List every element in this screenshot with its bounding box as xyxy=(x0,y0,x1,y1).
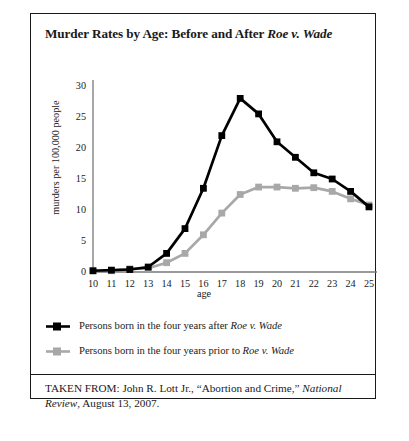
y-tick-label: 20 xyxy=(60,143,86,153)
chart-title-case-name: Roe v. Wade xyxy=(267,26,332,41)
data-point-marker xyxy=(218,210,225,217)
data-point-marker xyxy=(310,184,317,191)
legend-key-black xyxy=(45,321,71,332)
chart-title-prefix: Murder Rates by Age: Before and After xyxy=(45,26,267,41)
legend-label-prior-prefix: Persons born in the four years prior to xyxy=(79,345,243,356)
legend-label-after-prefix: Persons born in the four years after xyxy=(79,320,231,331)
data-point-marker xyxy=(200,231,207,238)
data-point-marker xyxy=(218,132,225,139)
legend-item-prior: Persons born in the four years prior to … xyxy=(45,344,371,369)
chart-title: Murder Rates by Age: Before and After Ro… xyxy=(45,26,365,42)
data-point-marker xyxy=(329,176,336,183)
data-point-marker xyxy=(163,259,170,266)
data-point-marker xyxy=(90,267,97,274)
source-divider xyxy=(31,374,375,375)
legend-item-after: Persons born in the four years after Roe… xyxy=(45,319,371,344)
data-point-marker xyxy=(126,266,133,273)
data-point-marker xyxy=(163,250,170,257)
data-point-marker xyxy=(310,169,317,176)
legend-label-prior-case-name: Roe v. Wade xyxy=(243,345,294,356)
data-point-marker xyxy=(274,184,281,191)
y-tick-label: 25 xyxy=(60,112,86,122)
y-tick-label: 10 xyxy=(60,205,86,215)
data-point-marker xyxy=(200,185,207,192)
data-point-marker xyxy=(292,154,299,161)
y-tick-label: 0 xyxy=(60,267,86,277)
source-suffix: , August 13, 2007. xyxy=(77,397,159,409)
data-point-marker xyxy=(182,225,189,232)
data-point-marker xyxy=(237,95,244,102)
source-prefix: TAKEN FROM: John R. Lott Jr., “Abortion … xyxy=(45,382,302,394)
line-chart: murders per 100,000 people age 051015202… xyxy=(31,56,377,308)
source-citation: TAKEN FROM: John R. Lott Jr., “Abortion … xyxy=(45,381,365,412)
y-tick-label: 30 xyxy=(60,81,86,91)
chart-legend: Persons born in the four years after Roe… xyxy=(45,319,371,369)
y-tick-label: 5 xyxy=(60,236,86,246)
data-point-marker xyxy=(347,195,354,202)
data-point-marker xyxy=(255,111,262,118)
data-point-marker xyxy=(347,188,354,195)
data-point-marker xyxy=(292,185,299,192)
data-point-marker xyxy=(274,138,281,145)
series-line xyxy=(93,187,369,271)
data-point-marker xyxy=(145,264,152,271)
legend-label-prior: Persons born in the four years prior to … xyxy=(79,345,294,356)
y-tick-label: 15 xyxy=(60,174,86,184)
data-point-marker xyxy=(255,184,262,191)
legend-label-after-case-name: Roe v. Wade xyxy=(231,320,282,331)
data-point-marker xyxy=(182,250,189,257)
figure-container: Murder Rates by Age: Before and After Ro… xyxy=(30,13,376,399)
data-point-marker xyxy=(237,191,244,198)
legend-key-gray xyxy=(45,346,71,357)
data-point-marker xyxy=(108,267,115,274)
data-point-marker xyxy=(366,204,373,211)
series-line xyxy=(93,98,369,270)
legend-label-after: Persons born in the four years after Roe… xyxy=(79,320,282,331)
x-tick-label: 25 xyxy=(358,279,380,289)
data-point-marker xyxy=(329,188,336,195)
